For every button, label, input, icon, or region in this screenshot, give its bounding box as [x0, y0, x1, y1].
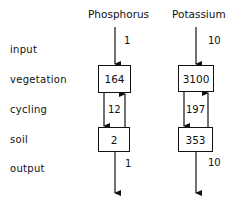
column-header-phosphorus: Phosphorus — [88, 8, 149, 20]
row-label-vegetation: vegetation — [10, 74, 67, 85]
potassium-vegetation-box: 3100 — [178, 65, 214, 92]
row-label-cycling: cycling — [10, 104, 47, 115]
potassium-output-value: 10 — [208, 157, 221, 168]
column-header-potassium: Potassium — [172, 8, 226, 20]
row-label-input: input — [10, 44, 37, 55]
phosphorus-vegetation-box: 164 — [98, 65, 131, 93]
potassium-cycling-value: 197 — [186, 104, 205, 115]
potassium-soil-box: 353 — [178, 127, 213, 152]
row-label-output: output — [10, 163, 45, 174]
potassium-input-value: 10 — [208, 35, 221, 46]
phosphorus-input-value: 1 — [124, 35, 130, 46]
phosphorus-output-value: 1 — [125, 158, 131, 169]
phosphorus-soil-box: 2 — [98, 127, 130, 152]
row-label-soil: soil — [10, 134, 28, 145]
phosphorus-cycling-value: 12 — [108, 104, 121, 115]
